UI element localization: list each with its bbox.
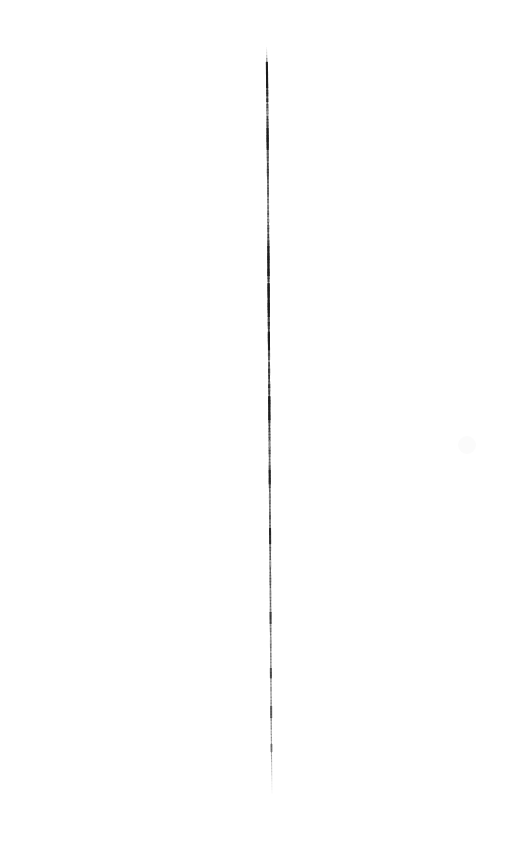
image-canvas: A single thin dark vertical stroke runni… bbox=[0, 0, 523, 860]
stroke-illustration bbox=[0, 0, 523, 860]
background-rect bbox=[0, 0, 523, 860]
faint-smudge bbox=[458, 436, 476, 454]
